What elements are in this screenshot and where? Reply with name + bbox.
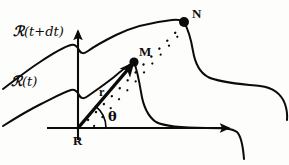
vector-magnitude-label-r: r — [99, 86, 104, 98]
point-marker-m — [129, 57, 138, 66]
point-label-n: N — [192, 7, 201, 20]
angle-arc — [96, 106, 107, 128]
script-r-glyph: ℛ — [11, 73, 22, 89]
script-r-glyph: ℛ — [13, 23, 24, 39]
point-label-m: M — [139, 45, 151, 58]
curve-label-configuration-current: ℛ(t) — [11, 74, 37, 88]
point-marker-n — [179, 17, 189, 27]
origin-label-r: R — [73, 134, 82, 147]
position-vector-r — [78, 64, 133, 129]
curve-label-configuration-next: ℛ(t+dt) — [13, 24, 64, 38]
configuration-current-argument: (t) — [22, 74, 37, 89]
configuration-next-argument: (t+dt) — [24, 24, 64, 39]
figure-container: ℛ(t+dt) ℛ(t) M N R r θ — [0, 0, 289, 165]
angle-label-theta: θ — [108, 110, 117, 123]
